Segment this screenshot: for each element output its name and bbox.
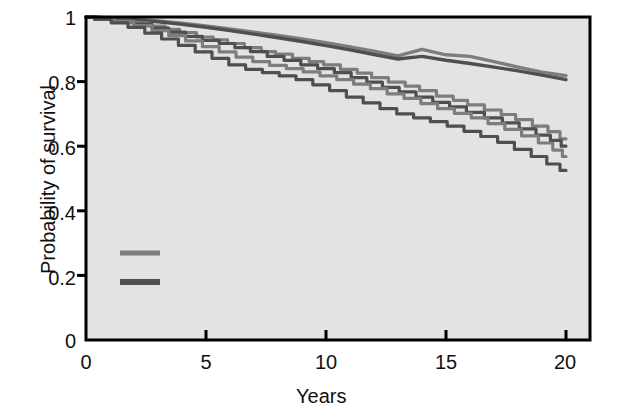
plot-svg bbox=[0, 0, 624, 413]
survival-chart-figure: Probability of survival 1 0.8 0.6 0.4 0.… bbox=[0, 0, 624, 413]
